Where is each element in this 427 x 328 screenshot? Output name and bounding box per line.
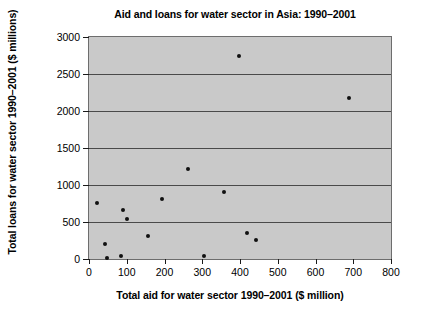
data-point [202, 254, 206, 258]
data-point [146, 234, 150, 238]
x-tick-mark-300 [202, 259, 203, 264]
plot-inner [89, 37, 391, 259]
data-point [222, 190, 226, 194]
gridline-y-500 [89, 222, 391, 223]
data-point [95, 201, 99, 205]
x-tick-mark-800 [391, 259, 392, 264]
data-point [121, 208, 125, 212]
data-point [125, 217, 129, 221]
gridline-y-1500 [89, 148, 391, 149]
y-tick-label-1500: 1500 [57, 142, 80, 154]
y-axis-title: Total loans for water sector 1990–2001 (… [6, 7, 18, 257]
x-tick-mark-100 [127, 259, 128, 264]
y-tick-mark-500 [83, 222, 89, 223]
x-tick-label-800: 800 [382, 266, 400, 278]
x-tick-label-200: 200 [156, 266, 174, 278]
y-tick-mark-2000 [83, 111, 89, 112]
x-tick-mark-400 [240, 259, 241, 264]
y-tick-mark-1000 [83, 185, 89, 186]
x-axis-title: Total aid for water sector 1990–2001 ($ … [60, 289, 400, 301]
x-tick-label-700: 700 [344, 266, 362, 278]
data-point [186, 167, 190, 171]
y-tick-label-2000: 2000 [57, 105, 80, 117]
x-tick-label-600: 600 [307, 266, 325, 278]
x-tick-label-0: 0 [86, 266, 92, 278]
y-tick-label-2500: 2500 [57, 68, 80, 80]
plot-area: 0500100015002000250030000100200300400500… [88, 36, 392, 260]
data-point [103, 242, 107, 246]
x-tick-label-300: 300 [193, 266, 211, 278]
x-tick-mark-600 [316, 259, 317, 264]
data-point [119, 254, 123, 258]
y-tick-label-3000: 3000 [57, 31, 80, 43]
chart-title: Aid and loans for water sector in Asia: … [78, 8, 392, 20]
x-tick-mark-500 [278, 259, 279, 264]
x-tick-label-100: 100 [118, 266, 136, 278]
y-axis-title-wrapper: Total loans for water sector 1990–2001 (… [0, 0, 20, 270]
gridline-y-2000 [89, 111, 391, 112]
y-tick-label-1000: 1000 [57, 179, 80, 191]
figure: Aid and loans for water sector in Asia: … [0, 0, 427, 328]
data-point [245, 231, 249, 235]
data-point [160, 197, 164, 201]
data-point [237, 54, 241, 58]
x-tick-label-400: 400 [231, 266, 249, 278]
y-tick-mark-3000 [83, 37, 89, 38]
data-point [347, 96, 351, 100]
gridline-y-2500 [89, 74, 391, 75]
y-tick-mark-2500 [83, 74, 89, 75]
y-tick-mark-1500 [83, 148, 89, 149]
data-point [254, 238, 258, 242]
y-tick-label-0: 0 [74, 253, 80, 265]
x-tick-mark-200 [165, 259, 166, 264]
y-tick-label-500: 500 [62, 216, 80, 228]
x-tick-mark-700 [353, 259, 354, 264]
x-tick-label-500: 500 [269, 266, 287, 278]
gridline-y-1000 [89, 185, 391, 186]
data-point [105, 256, 109, 260]
x-tick-mark-0 [89, 259, 90, 264]
